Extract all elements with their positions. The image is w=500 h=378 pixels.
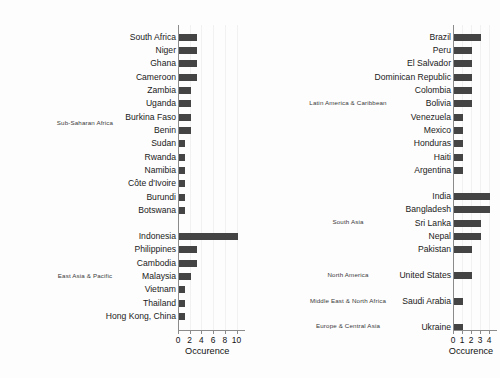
category-label: Colombia (415, 84, 451, 97)
x-axis-title: Occurence (421, 346, 500, 356)
bar (454, 60, 472, 67)
group-label: North America (250, 271, 446, 278)
x-axis-tick (190, 331, 191, 334)
x-axis-tick (237, 331, 238, 334)
group-label: Europe & Central Asia (250, 322, 446, 329)
bar-row: South Africa (0, 31, 250, 44)
x-axis-tick (201, 331, 202, 334)
category-label: Zambia (147, 84, 176, 97)
category-label: Namibia (144, 164, 176, 177)
bar-row: Mexico (250, 124, 500, 137)
category-label: Niger (155, 44, 176, 57)
x-axis-tick-label: 4 (479, 335, 499, 345)
bar (454, 220, 481, 227)
category-label: Uganda (146, 97, 176, 110)
bar (454, 246, 472, 253)
category-label: Peru (433, 44, 451, 57)
category-label: Burundi (146, 191, 176, 204)
bar (454, 34, 481, 41)
bar-row: Cameroon (0, 71, 250, 84)
bar (179, 47, 197, 54)
bar (179, 34, 197, 41)
bar (179, 74, 197, 81)
category-label: India (432, 190, 451, 203)
group-label: Sub-Saharan Africa (0, 119, 170, 126)
bar-row: Cambodia (0, 257, 250, 270)
bar (179, 246, 197, 253)
bar-row: Venezuela (250, 111, 500, 124)
bar-row: Brazil (250, 31, 500, 44)
bar-row: India (250, 190, 500, 203)
bar (179, 233, 238, 240)
bar (179, 87, 191, 94)
x-axis-tick (489, 331, 490, 334)
y-axis-spine (453, 25, 454, 331)
bar (179, 273, 191, 280)
bar-row: Peru (250, 44, 500, 57)
category-label: Cameroon (136, 71, 176, 84)
group-label: Middle East & North Africa (250, 297, 446, 304)
bar-row: Dominican Republic (250, 71, 500, 84)
category-label: Pakistan (418, 243, 451, 256)
bar (454, 272, 472, 279)
bar (179, 207, 185, 214)
bar (454, 154, 463, 161)
bar-row: Bangladesh (250, 203, 500, 216)
bar-row: Botswana (0, 204, 250, 217)
bar-row: Ghana (0, 57, 250, 70)
category-label: Thailand (143, 297, 176, 310)
chart-panel-right: BrazilPeruEl SalvadorDominican RepublicC… (250, 0, 500, 378)
category-label: Philippines (134, 243, 176, 256)
category-label: Dominican Republic (375, 71, 451, 84)
bar-row: Argentina (250, 164, 500, 177)
bar (454, 100, 472, 107)
x-axis-tick (480, 331, 481, 334)
bar (454, 193, 490, 200)
category-label: Botswana (138, 204, 176, 217)
bar-row: Sudan (0, 137, 250, 150)
bar (454, 298, 463, 305)
x-axis-tick (471, 331, 472, 334)
category-label: Cambodia (137, 257, 176, 270)
category-label: Mexico (424, 124, 451, 137)
bar-row: El Salvador (250, 57, 500, 70)
group-label: East Asia & Pacific (0, 272, 170, 279)
category-label: Nepal (429, 230, 451, 243)
x-axis-tick (462, 331, 463, 334)
bar (179, 60, 197, 67)
bar-row: Honduras (250, 137, 500, 150)
group-label: South Asia (250, 218, 446, 225)
bar (179, 286, 185, 293)
category-label: Honduras (414, 137, 451, 150)
x-axis-tick (225, 331, 226, 334)
x-axis-tick (453, 331, 454, 334)
bar (179, 154, 185, 161)
bar (454, 47, 472, 54)
category-label: South Africa (130, 31, 176, 44)
bar (179, 194, 185, 201)
category-label: Rwanda (144, 151, 176, 164)
bar-row: Pakistan (250, 243, 500, 256)
x-axis-tick (213, 331, 214, 334)
bar-row: Hong Kong, China (0, 310, 250, 323)
bar (454, 233, 481, 240)
bar-row: Thailand (0, 297, 250, 310)
x-axis-line (178, 330, 245, 331)
bar-row: Rwanda (0, 151, 250, 164)
bar (454, 206, 490, 213)
group-label: Latin America & Caribbean (250, 99, 446, 106)
bar (454, 114, 463, 121)
x-axis-tick (178, 331, 179, 334)
x-axis-title: Occurence (157, 346, 257, 356)
bar (179, 114, 191, 121)
x-axis-tick-label: 10 (227, 335, 247, 345)
bar-row: Colombia (250, 84, 500, 97)
x-axis-line (453, 330, 497, 331)
category-label: Haiti (434, 151, 451, 164)
bar (454, 127, 463, 134)
bar-row: Niger (0, 44, 250, 57)
category-label: Indonesia (139, 230, 176, 243)
bar (454, 140, 463, 147)
bar-row: Haiti (250, 151, 500, 164)
bar-row: Côte d'Ivoire (0, 177, 250, 190)
